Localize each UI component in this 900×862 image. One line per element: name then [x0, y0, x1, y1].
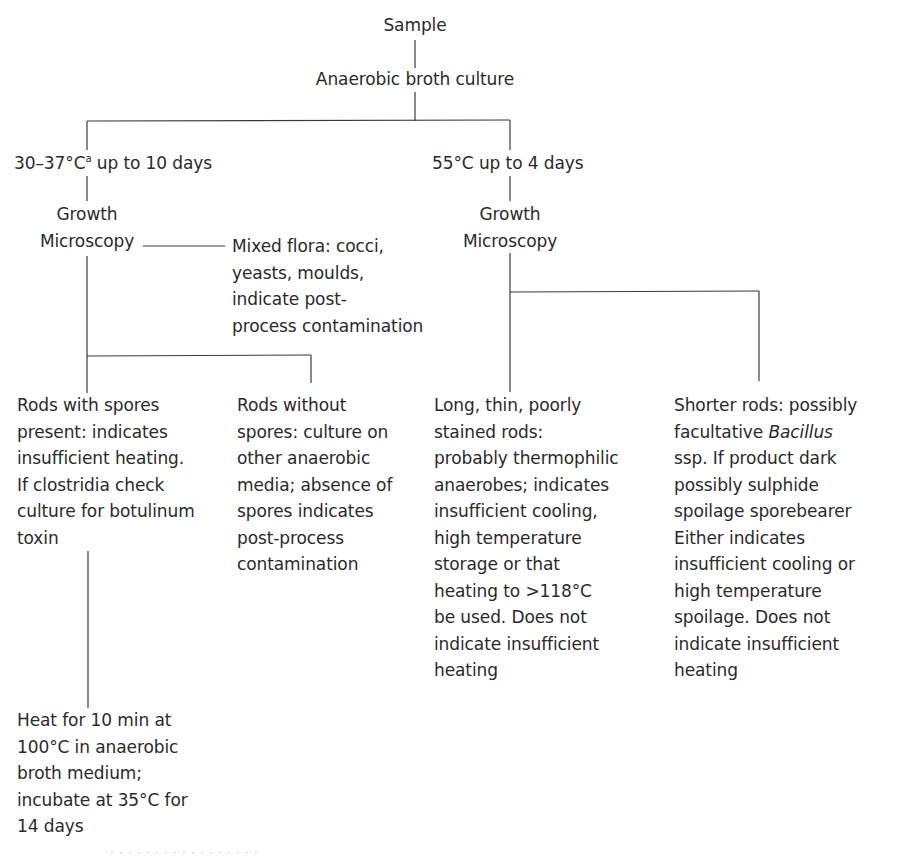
node-rods-with-spores: Rods with spores present: indicates insu…: [17, 392, 195, 551]
rods-without-spores-line: post-process: [237, 525, 392, 552]
shorter-rods-line: spoilage sporebearer: [674, 498, 857, 525]
node-heat-follow-up: Heat for 10 min at 100°C in anaerobic br…: [17, 707, 188, 840]
long-thin-rods-line: heating to >118°C: [434, 578, 619, 605]
node-sample: Sample: [365, 12, 465, 39]
shorter-rods-line: insufficient cooling or: [674, 551, 857, 578]
node-growth-microscopy-mesophilic: Growth Microscopy: [27, 201, 147, 254]
heat-follow-up-line: 100°C in anaerobic: [17, 734, 188, 761]
long-thin-rods-line: Long, thin, poorly: [434, 392, 619, 419]
node-mixed-flora-result: Mixed flora: cocci, yeasts, moulds, indi…: [232, 233, 423, 339]
rods-with-spores-line: present: indicates: [17, 419, 195, 446]
mixed-flora-line: Mixed flora: cocci,: [232, 233, 423, 260]
long-thin-rods-line: high temperature: [434, 525, 619, 552]
microscopy-label-left: Microscopy: [27, 228, 147, 255]
mixed-flora-line: yeasts, moulds,: [232, 260, 423, 287]
node-growth-microscopy-thermophilic: Growth Microscopy: [450, 201, 570, 254]
long-thin-rods-line: insufficient cooling,: [434, 498, 619, 525]
rods-with-spores-line: culture for botulinum: [17, 498, 195, 525]
rods-without-spores-line: contamination: [237, 551, 392, 578]
heat-follow-up-line: broth medium;: [17, 760, 188, 787]
node-long-thin-rods: Long, thin, poorly stained rods: probabl…: [434, 392, 619, 684]
node-sample-label: Sample: [365, 12, 465, 39]
condition-thermophilic-label: 55°C up to 4 days: [432, 150, 584, 177]
growth-label-left: Growth: [27, 201, 147, 228]
connector-right-split-bar: [510, 291, 759, 292]
long-thin-rods-line: storage or that: [434, 551, 619, 578]
microscopy-label-right: Microscopy: [450, 228, 570, 255]
long-thin-rods-line: anaerobes; indicates: [434, 472, 619, 499]
connector-split-bar: [87, 120, 510, 121]
rods-without-spores-line: Rods without: [237, 392, 392, 419]
rods-with-spores-line: Rods with spores: [17, 392, 195, 419]
condition-mesophilic-temp: 30–37°C: [14, 153, 85, 173]
rods-without-spores-line: spores indicates: [237, 498, 392, 525]
mixed-flora-line: process contamination: [232, 313, 423, 340]
growth-label-right: Growth: [450, 201, 570, 228]
long-thin-rods-line: probably thermophilic: [434, 445, 619, 472]
connector-left-split-bar: [87, 355, 311, 356]
shorter-rods-line: possibly sulphide: [674, 472, 857, 499]
shorter-rods-line-prefix: facultative: [674, 422, 768, 442]
long-thin-rods-line: be used. Does not: [434, 604, 619, 631]
shorter-rods-line: heating: [674, 657, 857, 684]
long-thin-rods-line: stained rods:: [434, 419, 619, 446]
shorter-rods-line: Either indicates: [674, 525, 857, 552]
caption-fragment: · · · · · · · · · · · · · · · · ·: [110, 846, 258, 859]
rods-without-spores-line: other anaerobic: [237, 445, 392, 472]
shorter-rods-line: ssp. If product dark: [674, 445, 857, 472]
node-condition-mesophilic: 30–37°Ca up to 10 days: [14, 150, 212, 177]
shorter-rods-line: high temperature: [674, 578, 857, 605]
rods-without-spores-line: media; absence of: [237, 472, 392, 499]
rods-without-spores-line: spores: culture on: [237, 419, 392, 446]
node-shorter-rods: Shorter rods: possibly facultative Bacil…: [674, 392, 857, 684]
shorter-rods-line: indicate insufficient: [674, 631, 857, 658]
node-anaerobic-broth-culture-label: Anaerobic broth culture: [290, 66, 540, 93]
node-anaerobic-broth-culture: Anaerobic broth culture: [290, 66, 540, 93]
node-condition-thermophilic: 55°C up to 4 days: [432, 150, 584, 177]
heat-follow-up-line: 14 days: [17, 813, 188, 840]
shorter-rods-line: Shorter rods: possibly: [674, 392, 857, 419]
shorter-rods-line: spoilage. Does not: [674, 604, 857, 631]
long-thin-rods-line: indicate insufficient: [434, 631, 619, 658]
rods-with-spores-line: toxin: [17, 525, 195, 552]
rods-with-spores-line: If clostridia check: [17, 472, 195, 499]
bacillus-genus-name: Bacillus: [768, 422, 832, 442]
condition-mesophilic-duration: up to 10 days: [91, 153, 212, 173]
mixed-flora-line: indicate post-: [232, 286, 423, 313]
node-rods-without-spores: Rods without spores: culture on other an…: [237, 392, 392, 578]
rods-with-spores-line: insufficient heating.: [17, 445, 195, 472]
heat-follow-up-line: incubate at 35°C for: [17, 787, 188, 814]
heat-follow-up-line: Heat for 10 min at: [17, 707, 188, 734]
long-thin-rods-line: heating: [434, 657, 619, 684]
flowchart-diagram: Sample Anaerobic broth culture 30–37°Ca …: [0, 0, 900, 862]
